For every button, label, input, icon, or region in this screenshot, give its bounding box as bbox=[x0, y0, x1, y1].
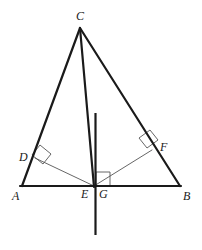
geometry-diagram bbox=[0, 0, 202, 250]
vertex-label-f: F bbox=[160, 141, 167, 153]
side-ac bbox=[22, 28, 80, 186]
vertex-label-e: E bbox=[81, 188, 88, 200]
cevian-ce bbox=[80, 28, 94, 187]
vertex-label-c: C bbox=[76, 10, 84, 22]
perpendicular-ed bbox=[35, 158, 94, 186]
geometry-figure: C D F A E G B bbox=[0, 0, 202, 250]
perpendicular-ef bbox=[94, 150, 152, 186]
vertex-label-b: B bbox=[183, 190, 190, 202]
vertex-label-a: A bbox=[12, 190, 19, 202]
vertex-label-d: D bbox=[19, 151, 28, 163]
vertex-label-g: G bbox=[99, 188, 108, 200]
